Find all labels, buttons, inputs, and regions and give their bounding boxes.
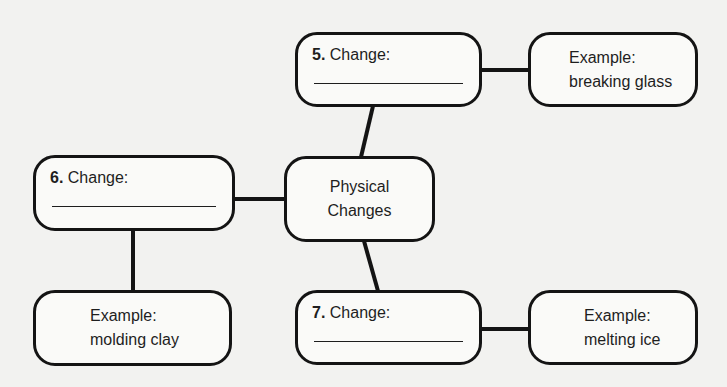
example-text-molding-clay: Example: molding clay xyxy=(36,304,229,352)
example-value: molding clay xyxy=(90,328,229,352)
connector-center-to-change-7 xyxy=(364,241,378,291)
center-title: Physical Changes xyxy=(287,175,432,223)
change-text-5: Change: xyxy=(330,46,391,63)
example-value: melting ice xyxy=(584,328,695,352)
answer-blank-5[interactable] xyxy=(314,83,463,84)
change-label-6: 6. Change: xyxy=(50,169,128,187)
example-title: Example: xyxy=(90,304,229,328)
center-title-line1: Physical xyxy=(287,175,432,199)
center-title-line2: Changes xyxy=(287,199,432,223)
change-text-7: Change: xyxy=(330,304,391,321)
physical-changes-concept-map: 5. Change: Example: breaking glass Physi… xyxy=(0,0,727,387)
change-text-6: Change: xyxy=(68,169,129,186)
change-label-5: 5. Change: xyxy=(312,46,390,64)
question-number-5: 5. xyxy=(312,46,325,63)
example-node-melting-ice: Example: melting ice xyxy=(528,290,698,365)
change-node-7: 7. Change: xyxy=(295,290,482,365)
center-node-physical-changes: Physical Changes xyxy=(284,156,435,242)
example-value: breaking glass xyxy=(569,70,695,94)
connector-center-to-change-5 xyxy=(361,106,373,157)
example-text-melting-ice: Example: melting ice xyxy=(531,304,695,352)
change-label-7: 7. Change: xyxy=(312,304,390,322)
answer-blank-6[interactable] xyxy=(52,206,216,207)
example-node-breaking-glass: Example: breaking glass xyxy=(528,32,698,107)
change-node-6: 6. Change: xyxy=(33,155,235,231)
question-number-7: 7. xyxy=(312,304,325,321)
answer-blank-7[interactable] xyxy=(314,341,463,342)
example-title: Example: xyxy=(584,304,695,328)
example-title: Example: xyxy=(569,46,695,70)
change-node-5: 5. Change: xyxy=(295,32,482,107)
example-node-molding-clay: Example: molding clay xyxy=(33,290,232,366)
question-number-6: 6. xyxy=(50,169,63,186)
example-text-breaking-glass: Example: breaking glass xyxy=(531,46,695,94)
